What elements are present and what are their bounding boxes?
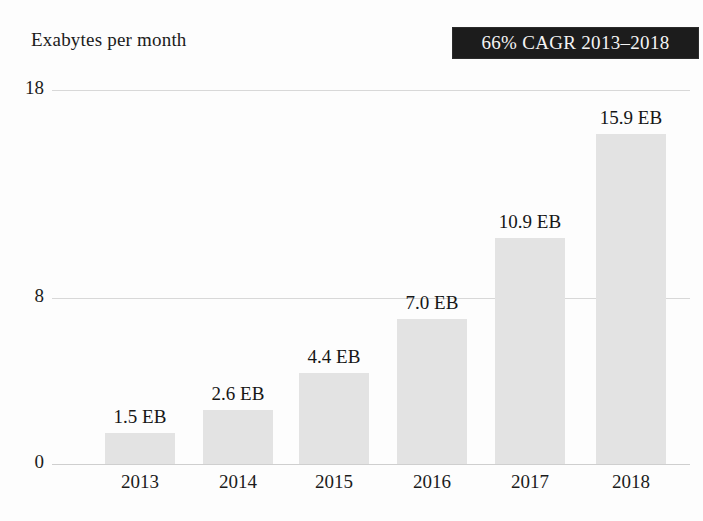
y-axis-tick-label: 0	[4, 451, 44, 473]
plot-area: 08181.5 EB20132.6 EB20144.4 EB20157.0 EB…	[0, 0, 703, 521]
y-axis-tick-label: 18	[4, 77, 44, 99]
bar-value-label-2017: 10.9 EB	[470, 211, 590, 233]
bar-2018	[596, 134, 666, 464]
bar-2017	[495, 238, 565, 464]
gridline-0	[52, 464, 690, 465]
bar-value-label-2016: 7.0 EB	[372, 292, 492, 314]
y-axis-tick-label: 8	[4, 285, 44, 307]
bar-chart: Exabytes per month 66% CAGR 2013–2018 08…	[0, 0, 703, 521]
gridline-18	[52, 90, 690, 91]
bar-value-label-2013: 1.5 EB	[80, 406, 200, 428]
bar-2015	[299, 373, 369, 464]
bar-value-label-2015: 4.4 EB	[274, 346, 394, 368]
bar-2016	[397, 319, 467, 464]
x-axis-tick-label-2018: 2018	[571, 471, 691, 493]
gridline-8	[52, 298, 690, 299]
bar-2013	[105, 433, 175, 464]
bar-value-label-2014: 2.6 EB	[178, 383, 298, 405]
bar-value-label-2018: 15.9 EB	[571, 107, 691, 129]
bar-2014	[203, 410, 273, 464]
